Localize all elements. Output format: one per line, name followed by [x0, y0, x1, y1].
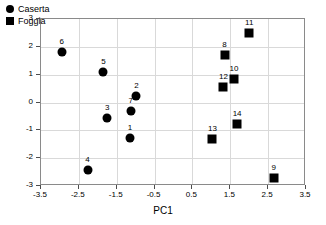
data-point-6	[57, 47, 66, 56]
data-point-9	[269, 173, 278, 182]
x-tick-label: -1.5	[109, 191, 123, 199]
gridline-horizontal	[41, 47, 304, 48]
y-tick-label: -1	[0, 125, 33, 133]
data-point-label-13: 13	[208, 125, 217, 133]
x-tick-label: 1.5	[224, 191, 235, 199]
legend-item-foggia: Foggia	[6, 15, 50, 27]
data-point-label-14: 14	[233, 110, 242, 118]
x-axis-label: PC1	[0, 205, 326, 216]
data-point-label-5: 5	[101, 58, 105, 66]
gridline-horizontal	[41, 103, 304, 104]
y-tick-mark	[36, 157, 40, 158]
data-point-11	[245, 28, 254, 37]
legend-label: Foggia	[18, 17, 46, 26]
gridline-horizontal	[41, 75, 304, 76]
y-tick-label: 2	[0, 42, 33, 50]
x-tick-mark	[229, 185, 230, 189]
data-point-label-8: 8	[222, 41, 226, 49]
x-tick-label: 3.5	[299, 191, 310, 199]
y-tick-mark	[36, 74, 40, 75]
data-point-2	[132, 92, 141, 101]
gridline-vertical	[79, 19, 80, 184]
y-tick-mark	[36, 46, 40, 47]
y-tick-mark	[36, 102, 40, 103]
y-tick-label: 0	[0, 98, 33, 106]
data-point-5	[99, 68, 108, 77]
data-point-label-10: 10	[230, 65, 239, 73]
gridline-horizontal	[41, 130, 304, 131]
data-point-7	[126, 107, 135, 116]
legend: Caserta Foggia	[6, 3, 50, 27]
x-tick-label: -0.5	[147, 191, 161, 199]
square-marker-icon	[6, 17, 14, 25]
y-tick-label: -2	[0, 153, 33, 161]
data-point-10	[230, 74, 239, 83]
pca-scatter-figure: 6534721118101214139 -3.5-2.5-1.5-0.50.51…	[0, 0, 326, 225]
x-tick-mark	[305, 185, 306, 189]
data-point-4	[83, 165, 92, 174]
data-point-label-3: 3	[105, 104, 109, 112]
data-point-3	[103, 114, 112, 123]
data-point-13	[208, 135, 217, 144]
data-point-label-6: 6	[60, 38, 64, 46]
legend-item-caserta: Caserta	[6, 3, 50, 15]
x-tick-label: 2.5	[262, 191, 273, 199]
data-point-12	[219, 83, 228, 92]
x-tick-label: 0.5	[186, 191, 197, 199]
data-point-label-12: 12	[219, 73, 228, 81]
y-tick-mark	[36, 185, 40, 186]
legend-label: Caserta	[18, 5, 50, 14]
x-tick-mark	[154, 185, 155, 189]
circle-marker-icon	[6, 5, 14, 13]
x-tick-mark	[40, 185, 41, 189]
gridline-vertical	[117, 19, 118, 184]
x-tick-mark	[191, 185, 192, 189]
gridline-vertical	[230, 19, 231, 184]
gridline-vertical	[268, 19, 269, 184]
x-tick-mark	[267, 185, 268, 189]
plot-area: 6534721118101214139	[40, 18, 305, 185]
y-tick-label: -3	[0, 181, 33, 189]
gridline-horizontal	[41, 158, 304, 159]
gridline-vertical	[192, 19, 193, 184]
data-point-label-1: 1	[128, 124, 132, 132]
data-point-label-4: 4	[85, 156, 89, 164]
data-point-8	[220, 51, 229, 60]
data-point-label-11: 11	[245, 19, 253, 27]
y-tick-mark	[36, 129, 40, 130]
y-tick-label: 1	[0, 70, 33, 78]
x-tick-label: -2.5	[71, 191, 85, 199]
data-point-label-9: 9	[272, 164, 276, 172]
gridline-vertical	[155, 19, 156, 184]
x-tick-mark	[78, 185, 79, 189]
data-point-label-2: 2	[134, 82, 138, 90]
data-point-1	[125, 134, 134, 143]
x-tick-mark	[116, 185, 117, 189]
x-tick-label: -3.5	[33, 191, 47, 199]
data-point-14	[233, 120, 242, 129]
